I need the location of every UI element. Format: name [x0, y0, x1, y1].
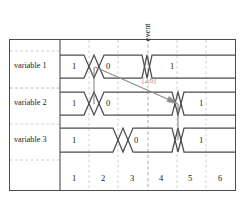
time-tick-6: 6: [218, 174, 222, 183]
time-tick-3: 3: [130, 174, 134, 183]
value-variable-1-segment-2: 0: [106, 62, 110, 71]
time-tick-4: 4: [159, 174, 163, 183]
delay-arrow-shaft: [95, 67, 172, 101]
delay-arrow-label: [2,6]: [142, 78, 156, 85]
row-label-variable-3: variable 3: [14, 136, 47, 144]
row-label-variable-2: variable 2: [14, 99, 47, 107]
value-variable-1-segment-3: 1: [170, 62, 174, 71]
row-label-variable-1: variable 1: [14, 62, 47, 70]
value-variable-2-segment-2: 0: [106, 99, 110, 108]
time-tick-1: 1: [72, 174, 76, 183]
value-variable-3-segment-2: 0: [134, 136, 138, 145]
event-label: event: [144, 23, 152, 41]
time-tick-5: 5: [188, 174, 192, 183]
timing-diagram-figure: event variable 1 variable 2 variable 3 1…: [0, 0, 244, 199]
value-variable-2-segment-3: 1: [199, 99, 203, 108]
value-variable-3-segment-3: 1: [199, 136, 203, 145]
waveform-variable-1: [60, 55, 235, 78]
time-tick-2: 2: [101, 174, 105, 183]
value-variable-1-segment-1: 1: [72, 62, 76, 71]
value-variable-3-segment-1: 1: [72, 136, 76, 145]
value-variable-2-segment-1: 1: [72, 99, 76, 108]
